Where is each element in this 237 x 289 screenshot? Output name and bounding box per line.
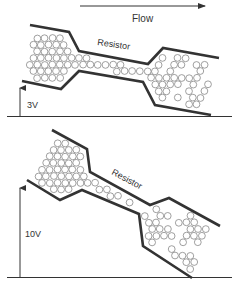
particle <box>54 166 61 173</box>
particle <box>35 173 42 180</box>
particle <box>30 41 37 48</box>
particle <box>76 55 83 62</box>
particle <box>51 173 58 180</box>
particle <box>175 81 182 88</box>
particle <box>186 88 193 95</box>
particle <box>153 219 160 226</box>
particle <box>179 252 186 259</box>
particle <box>180 239 187 246</box>
particle <box>65 186 72 193</box>
particle <box>69 166 76 173</box>
particle <box>50 160 57 167</box>
particle <box>190 81 197 88</box>
particle <box>46 167 53 174</box>
particle <box>54 179 61 186</box>
particle <box>77 180 84 187</box>
particle <box>187 253 194 260</box>
particle <box>163 74 170 81</box>
particle <box>193 62 200 69</box>
particle <box>62 180 69 187</box>
particle <box>46 153 53 160</box>
particle <box>96 186 103 193</box>
particle <box>129 68 136 75</box>
particle <box>69 180 76 187</box>
particle <box>117 61 124 68</box>
particle <box>159 81 166 88</box>
particle <box>155 88 162 95</box>
particle <box>45 41 52 48</box>
diagram-svg: Flow Resistor 3V Resistor 10V <box>0 0 237 289</box>
particle <box>30 68 37 75</box>
particle <box>87 61 94 68</box>
particle <box>53 41 60 48</box>
particle <box>58 173 65 180</box>
particle <box>136 68 143 75</box>
particle <box>84 180 91 187</box>
particle <box>195 226 202 233</box>
particle <box>62 153 69 160</box>
flow-label: Flow <box>132 13 154 24</box>
particle <box>153 206 160 213</box>
particle <box>26 62 33 69</box>
particle <box>186 75 193 82</box>
particle <box>68 55 75 62</box>
particle <box>37 68 44 75</box>
particle <box>37 55 44 62</box>
particle <box>157 212 164 219</box>
particle <box>73 146 80 153</box>
particle <box>107 193 114 200</box>
particle <box>61 68 68 75</box>
particle <box>178 61 185 68</box>
particle <box>34 48 41 55</box>
particle <box>152 68 159 75</box>
particle <box>175 219 182 226</box>
particle <box>34 61 41 68</box>
particle <box>49 48 56 55</box>
particle <box>83 55 90 62</box>
particle <box>49 35 56 42</box>
particle <box>199 232 206 239</box>
particle <box>156 75 163 82</box>
particle <box>205 81 212 88</box>
particle <box>201 88 208 95</box>
particle <box>171 61 178 68</box>
particle <box>145 233 152 240</box>
particle <box>110 61 117 68</box>
particle <box>45 68 52 75</box>
particle <box>104 186 111 193</box>
panel-high-voltage: Resistor 10V <box>7 130 232 278</box>
particle <box>167 81 174 88</box>
particle <box>161 232 168 239</box>
panel-low-voltage: Resistor 3V <box>7 25 232 117</box>
particle <box>193 101 200 108</box>
particle <box>144 68 151 75</box>
particle <box>57 48 64 55</box>
particle <box>49 75 56 82</box>
particle <box>41 35 48 42</box>
particle <box>62 140 69 147</box>
lower-wall-bottom <box>27 180 192 278</box>
particle <box>80 173 87 180</box>
particle <box>174 94 181 101</box>
particle <box>178 75 185 82</box>
particle <box>155 62 162 69</box>
particle <box>72 62 79 69</box>
particle <box>58 160 65 167</box>
voltage-label-top: 3V <box>27 100 38 110</box>
particle <box>46 180 53 187</box>
particle <box>165 226 172 233</box>
particle <box>183 259 190 266</box>
particle <box>167 68 174 75</box>
particle <box>191 219 198 226</box>
particle <box>168 246 175 253</box>
particle <box>60 42 67 49</box>
particle <box>171 74 178 81</box>
particle <box>126 199 133 206</box>
particle <box>50 147 57 154</box>
particle <box>115 192 122 199</box>
resistor-label-top: Resistor <box>97 37 131 51</box>
particle <box>182 55 189 62</box>
particle <box>197 68 204 75</box>
particle <box>146 219 153 226</box>
particle <box>191 259 198 266</box>
